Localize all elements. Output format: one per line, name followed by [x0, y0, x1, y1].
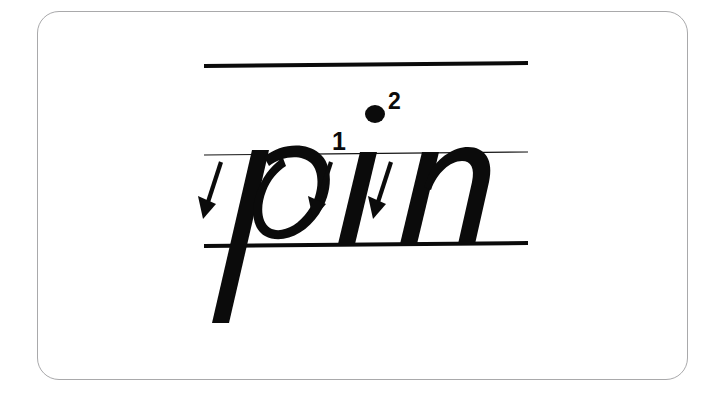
handwriting-practice-card: 1 2 — [37, 11, 688, 380]
stroke-order-1: 1 — [332, 127, 346, 155]
worksheet-canvas: 1 2 — [38, 12, 689, 381]
i-tittle-dot — [365, 105, 385, 123]
stroke-arrow-n-shaft — [378, 162, 391, 202]
stroke-arrow-p-shaft — [208, 162, 221, 202]
word-glyphs — [212, 146, 490, 323]
handwriting-worksheet: 1 2 — [38, 12, 689, 381]
baseline — [204, 243, 528, 246]
ascender-line — [204, 63, 528, 66]
letter-n-stem — [400, 152, 439, 244]
stroke-arrow-p — [198, 162, 221, 219]
letter-p — [212, 146, 330, 323]
letter-n — [400, 147, 490, 244]
letter-p-stem — [212, 150, 269, 323]
stroke-order-2: 2 — [388, 88, 401, 114]
